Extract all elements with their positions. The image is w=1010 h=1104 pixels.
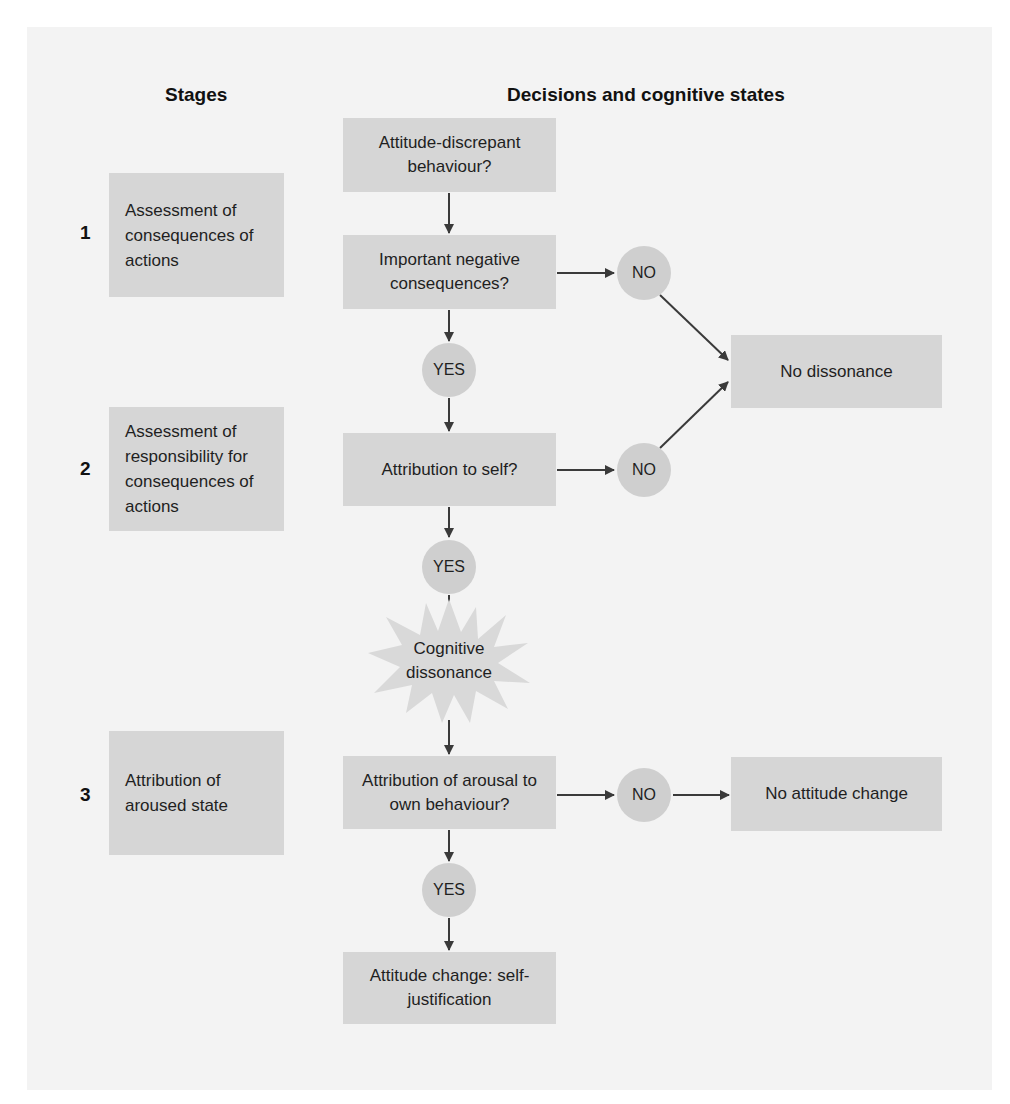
stage-3-box: Attribution of aroused state: [109, 731, 284, 855]
node-attitude-change-label: Attitude change: self-justification: [351, 964, 548, 1012]
stage-2-box: Assessment of responsibility for consequ…: [109, 407, 284, 531]
stage-2-label: Assessment of responsibility for consequ…: [125, 419, 284, 519]
node-attitude-change: Attitude change: self-justification: [343, 952, 556, 1024]
node-no-attitude-change: No attitude change: [731, 757, 942, 831]
node-no-attitude-change-label: No attitude change: [765, 782, 908, 806]
node-attribution-self-label: Attribution to self?: [381, 458, 517, 482]
stage-1-box: Assessment of consequences of actions: [109, 173, 284, 297]
stage-1-label: Assessment of consequences of actions: [125, 198, 284, 273]
node-attitude-discrepant: Attitude-discrepant behaviour?: [343, 118, 556, 192]
node-no-dissonance: No dissonance: [731, 335, 942, 408]
answer-no-3: NO: [617, 768, 671, 822]
stage-number-1: 1: [80, 222, 91, 244]
answer-no-2: NO: [617, 443, 671, 497]
node-attribution-arousal-label: Attribution of arousal to own behaviour?: [351, 769, 548, 817]
node-important-consequences-label: Important negative consequences?: [351, 248, 548, 296]
answer-yes-1: YES: [422, 343, 476, 397]
answer-yes-2: YES: [422, 540, 476, 594]
stage-number-2: 2: [80, 458, 91, 480]
stage-3-label: Attribution of aroused state: [125, 768, 284, 818]
node-attitude-discrepant-label: Attitude-discrepant behaviour?: [351, 131, 548, 179]
answer-yes-3: YES: [422, 863, 476, 917]
node-no-dissonance-label: No dissonance: [780, 360, 892, 384]
node-important-consequences: Important negative consequences?: [343, 235, 556, 309]
node-attribution-self: Attribution to self?: [343, 433, 556, 506]
stage-number-3: 3: [80, 784, 91, 806]
node-cognitive-dissonance: Cognitive dissonance: [369, 637, 529, 685]
node-attribution-arousal: Attribution of arousal to own behaviour?: [343, 756, 556, 829]
answer-no-1: NO: [617, 246, 671, 300]
